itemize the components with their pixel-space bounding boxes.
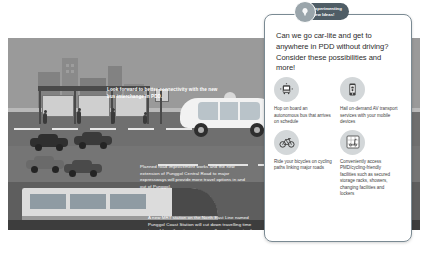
infographic-canvas: Look forward to better connectivity with… <box>0 0 428 262</box>
feature-text: Hail on-demand AV transport services wit… <box>340 106 398 126</box>
car-icon <box>26 156 64 171</box>
car-icon <box>30 134 68 149</box>
feature-grid: Hop on board an autonomous bus that arri… <box>274 77 406 202</box>
feature-item-autonomous-bus: Hop on board an autonomous bus that arri… <box>274 77 340 126</box>
status-badge: Experimenting New Ideas! <box>295 3 349 20</box>
mrt-station-caption: A new MRT station on the North East Line… <box>148 215 252 230</box>
car-icon <box>64 160 102 175</box>
bus-icon <box>274 77 299 102</box>
badge-line-1: Experimenting <box>312 6 342 11</box>
feature-text: Hop on board an autonomous bus that arri… <box>274 106 332 126</box>
feature-item-pmd-facilities: Conveniently access PMD/cycling-friendly… <box>340 130 406 198</box>
road-improvement-caption: Planned road improvement works and the n… <box>140 164 248 190</box>
car-icon <box>74 132 112 147</box>
feature-item-av-hailing: Hail on-demand AV transport services wit… <box>340 77 406 126</box>
scooter-locker-icon <box>340 130 365 155</box>
badge-text: Experimenting New Ideas! <box>312 6 342 17</box>
badge-line-2: New Ideas! <box>312 12 342 17</box>
lightbulb-icon <box>294 1 316 23</box>
bicycle-icon <box>274 130 299 155</box>
feature-item-cycling: Ride your bicycles on cycling paths link… <box>274 130 340 198</box>
feature-text: Ride your bicycles on cycling paths link… <box>274 159 332 172</box>
card-headline: Can we go car-lite and get to anywhere i… <box>276 31 402 74</box>
mobile-phone-icon <box>340 77 365 102</box>
feature-text: Conveniently access PMD/cycling-friendly… <box>340 159 398 198</box>
possibilities-card: Can we go car-lite and get to anywhere i… <box>264 14 412 242</box>
bus-interchange-caption: Look forward to better connectivity with… <box>107 87 219 101</box>
